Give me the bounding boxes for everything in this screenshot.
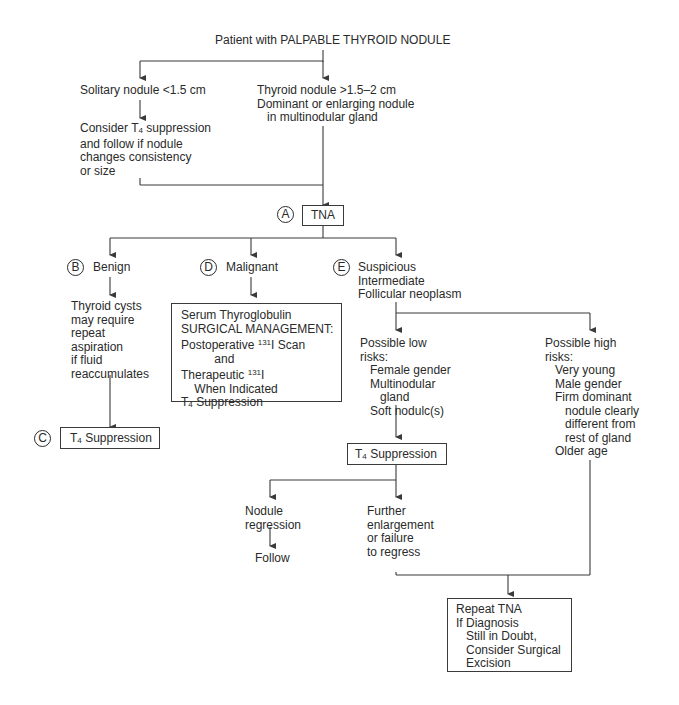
large-nodule-node: Thyroid nodule >1.5–2 cm Dominant or enl… — [257, 84, 414, 125]
suspicious-node: Suspicious Intermediate Follicular neopl… — [358, 261, 461, 302]
low-risk-t4-suppression-box: T4 Suppression — [347, 443, 447, 465]
root-node: Patient with PALPABLE THYROID NODULE — [215, 34, 450, 48]
small-nodule-action: Consider T4 suppression and follow if no… — [80, 122, 211, 178]
benign-node: Benign — [93, 261, 130, 275]
small-nodule-node: Solitary nodule <1.5 cm — [80, 84, 206, 98]
enlargement-node: Further enlargement or failure to regres… — [367, 505, 434, 559]
tna-box: TNA — [302, 205, 344, 226]
benign-t4-suppression-box: T4 Suppression — [60, 427, 160, 449]
malignant-management-box: Serum Thyroglobulin SURGICAL MANAGEMENT:… — [171, 303, 342, 402]
marker-b: B — [67, 259, 84, 276]
follow-node: Follow — [255, 552, 290, 566]
regression-node: Nodule regression — [245, 505, 301, 532]
malignant-node: Malignant — [226, 261, 278, 275]
low-risk-node: Possible low risks: Female gender Multin… — [360, 337, 451, 418]
marker-e: E — [333, 259, 350, 276]
final-repeat-tna-box: Repeat TNA If Diagnosis Still in Doubt, … — [447, 598, 572, 672]
benign-note: Thyroid cysts may require repeat aspirat… — [71, 300, 149, 381]
high-risk-node: Possible high risks: Very young Male gen… — [545, 337, 639, 459]
marker-d: D — [200, 259, 217, 276]
marker-a: A — [277, 206, 294, 223]
marker-c: C — [34, 430, 51, 447]
